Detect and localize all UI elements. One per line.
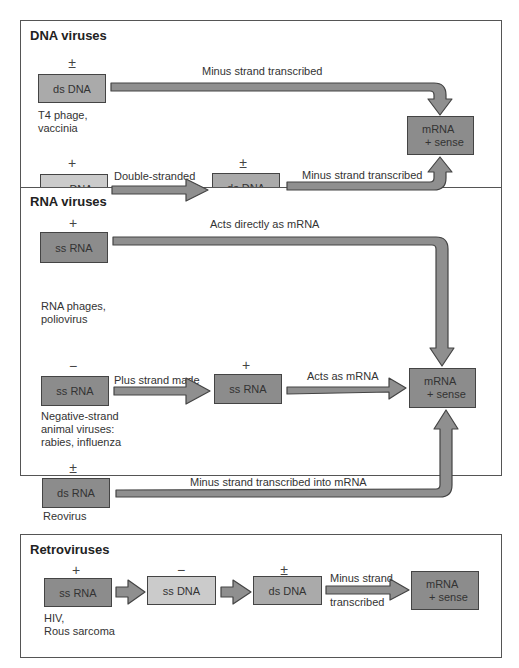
- sign-label: +: [42, 155, 102, 171]
- sign-label: +: [43, 215, 103, 231]
- arrow-label: Plus strand made: [114, 374, 200, 386]
- mrna-sense-box: mRNA + sense: [411, 571, 479, 610]
- caption-reovirus: Reovirus: [43, 510, 86, 523]
- ss-rna-box: ss RNA: [214, 374, 282, 404]
- caption-line: rabies, influenza: [41, 436, 121, 449]
- caption-rna-phages: RNA phages, poliovirus: [41, 300, 106, 326]
- caption-line: animal viruses:: [41, 423, 121, 436]
- sense-label: + sense: [422, 136, 464, 149]
- arrow-label: Minus strand: [330, 572, 393, 584]
- ds-dna-box: ds DNA: [253, 576, 322, 605]
- mrna-label: mRNA: [422, 123, 454, 136]
- caption-line: T4 phage,: [38, 109, 88, 122]
- sign-label: ±: [213, 155, 273, 171]
- panel-title: DNA viruses: [30, 28, 107, 43]
- arrow-label: Minus strand transcribed into mRNA: [190, 476, 367, 488]
- caption-hiv-rous: HIV, Rous sarcoma: [44, 612, 115, 638]
- mrna-sense-box: mRNA + sense: [407, 116, 474, 155]
- ds-dna-box: ds DNA: [38, 74, 106, 103]
- arrow-label: Acts directly as mRNA: [210, 218, 319, 230]
- caption-t4-vaccinia: T4 phage, vaccinia: [38, 109, 88, 135]
- sense-label: + sense: [426, 591, 468, 604]
- sign-label: ±: [42, 55, 102, 71]
- mrna-label: mRNA: [426, 578, 458, 591]
- sign-label: ±: [43, 460, 103, 476]
- mrna-sense-box: mRNA + sense: [409, 368, 476, 408]
- arrow-label: transcribed: [330, 596, 384, 608]
- caption-line: HIV,: [44, 612, 115, 625]
- arrow-label: Double-stranded: [114, 170, 195, 182]
- sense-label: + sense: [424, 388, 466, 401]
- ds-rna-box: ds RNA: [42, 478, 110, 508]
- caption-line: vaccinia: [38, 122, 88, 135]
- sign-label: +: [46, 562, 106, 578]
- ss-rna-box: ss RNA: [40, 232, 108, 263]
- sign-label: −: [43, 358, 103, 374]
- caption-line: poliovirus: [41, 313, 106, 326]
- panel-title: Retroviruses: [30, 542, 109, 557]
- arrow-label: Acts as mRNA: [307, 370, 379, 382]
- caption-line: Negative-strand: [41, 410, 121, 423]
- panel-title: RNA viruses: [30, 194, 107, 209]
- arrow-label: Minus strand transcribed: [202, 65, 322, 77]
- arrow-label: Minus strand transcribed: [302, 169, 422, 181]
- ss-rna-box: ss RNA: [44, 578, 112, 607]
- caption-line: Rous sarcoma: [44, 625, 115, 638]
- ss-rna-box: ss RNA: [41, 376, 109, 406]
- mrna-label: mRNA: [424, 375, 456, 388]
- caption-negative-strand: Negative-strand animal viruses: rabies, …: [41, 410, 121, 449]
- ss-dna-box: ss DNA: [147, 576, 216, 605]
- sign-label: +: [216, 357, 276, 373]
- caption-line: RNA phages,: [41, 300, 106, 313]
